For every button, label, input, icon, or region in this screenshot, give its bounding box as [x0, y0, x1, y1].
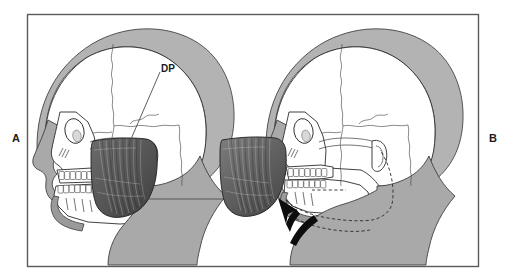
panel-b-letter: B	[489, 132, 497, 144]
lower-teeth-a	[58, 185, 97, 193]
panel-b-illustration	[220, 29, 463, 265]
anatomy-figure: A DP SP	[0, 0, 506, 277]
panel-a-illustration	[33, 29, 234, 265]
panel-a-letter: A	[12, 132, 20, 144]
figure-canvas: A DP SP	[0, 0, 506, 277]
masseter-muscle-b	[220, 137, 286, 216]
lower-teeth-b	[287, 180, 326, 188]
label-dp: DP	[161, 63, 175, 74]
upper-teeth-b	[288, 169, 327, 177]
